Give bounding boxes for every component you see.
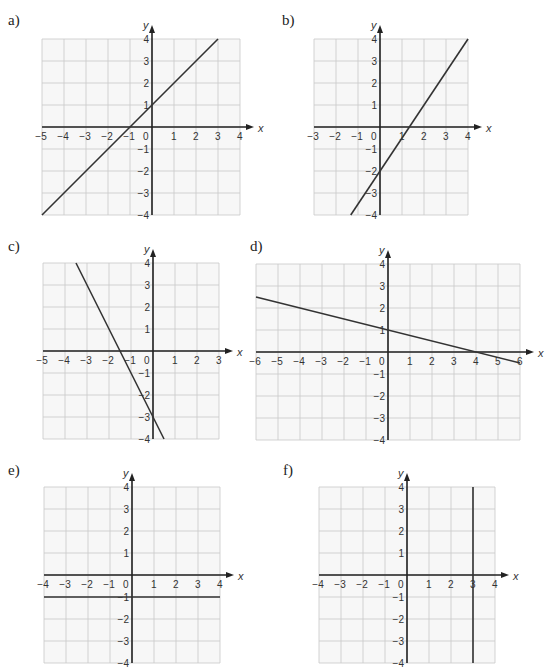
y-tick-label: 3	[398, 504, 404, 515]
x-tick-label: 2	[448, 579, 454, 590]
x-tick-label: 4	[492, 579, 498, 590]
x-tick-label: −3	[334, 579, 346, 590]
y-tick-label: −3	[393, 636, 405, 647]
y-tick-label: 2	[398, 526, 404, 537]
y-tick-label: 1	[398, 548, 404, 559]
x-tick-label: 0	[398, 579, 404, 590]
x-axis-arrow-icon	[501, 572, 509, 578]
x-tick-label: −1	[378, 579, 390, 590]
x-tick-label: −4	[312, 579, 324, 590]
y-tick-label: −2	[393, 614, 405, 625]
y-axis-arrow-icon	[404, 473, 410, 481]
x-tick-label: −2	[356, 579, 368, 590]
y-tick-label: 4	[398, 482, 404, 493]
x-tick-label: 1	[426, 579, 432, 590]
y-tick-label: −1	[393, 592, 405, 603]
x-axis-label: x	[512, 570, 519, 582]
graph-f-plot: xy−4−3−2−101234−4−3−2−11234	[0, 0, 549, 670]
y-axis-label: y	[397, 467, 405, 479]
y-tick-label: −4	[393, 658, 405, 669]
